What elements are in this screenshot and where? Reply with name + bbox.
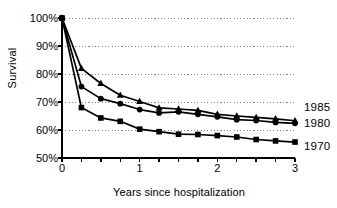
x-tick-label: 2	[207, 163, 227, 174]
x-tick-label: 3	[285, 163, 305, 174]
series-label-1985: 1985	[304, 102, 330, 113]
survival-chart: Survival 50%60%70%80%90%100% Years since…	[0, 0, 337, 208]
x-axis-label: Years since hospitalization	[62, 186, 296, 198]
series-1985	[59, 14, 299, 123]
x-tick-label: 1	[130, 163, 150, 174]
series-label-1970: 1970	[304, 141, 330, 152]
plot-canvas	[0, 0, 337, 208]
series-label-1980: 1980	[304, 118, 330, 129]
series-1980	[59, 15, 298, 126]
x-tick-label: 0	[52, 163, 72, 174]
